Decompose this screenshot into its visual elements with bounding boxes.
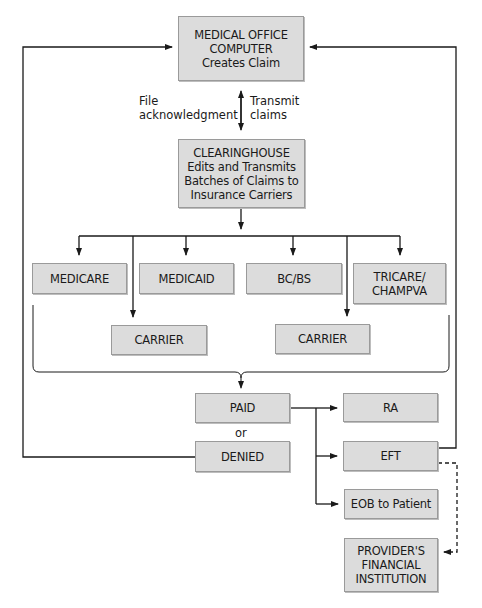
carrier-label-2: CARRIER — [298, 332, 347, 346]
transmit-claims-label: Transmit claims — [250, 94, 299, 122]
medicaid-label: MEDICAID — [159, 272, 215, 286]
paid-node: PAID — [195, 393, 290, 423]
or-label: or — [235, 426, 247, 440]
medical-office-computer-node: MEDICAL OFFICE COMPUTER Creates Claim — [178, 16, 304, 81]
medicare-node: MEDICARE — [32, 263, 127, 294]
clearinghouse-node: CLEARINGHOUSE Edits and Transmits Batche… — [178, 139, 305, 208]
ra-node: RA — [343, 393, 438, 422]
carrier-node-1: CARRIER — [111, 325, 207, 355]
providers-financial-institution-label: PROVIDER'S FINANCIAL INSTITUTION — [355, 544, 426, 586]
eob-to-patient-node: EOB to Patient — [344, 489, 438, 519]
bcbs-node: BC/BS — [246, 263, 342, 294]
providers-financial-institution-node: PROVIDER'S FINANCIAL INSTITUTION — [344, 538, 438, 592]
denied-label: DENIED — [221, 450, 264, 464]
carrier-node-2: CARRIER — [275, 324, 370, 354]
denied-node: DENIED — [195, 441, 290, 472]
clearinghouse-label: CLEARINGHOUSE Edits and Transmits Batche… — [184, 146, 298, 202]
paid-label: PAID — [230, 401, 256, 415]
eft-label: EFT — [380, 449, 400, 463]
carrier-label-1: CARRIER — [134, 333, 183, 347]
file-acknowledgment-label: File acknowledgment — [139, 94, 238, 122]
medicare-label: MEDICARE — [50, 272, 109, 286]
eft-node: EFT — [343, 441, 438, 471]
eob-to-patient-label: EOB to Patient — [351, 497, 431, 511]
tricare-champva-label: TRICARE/ CHAMPVA — [372, 270, 427, 298]
tricare-champva-node: TRICARE/ CHAMPVA — [353, 263, 446, 304]
ra-label: RA — [383, 401, 398, 415]
bcbs-label: BC/BS — [277, 272, 311, 286]
medicaid-node: MEDICAID — [139, 263, 234, 294]
medical-office-computer-label: MEDICAL OFFICE COMPUTER Creates Claim — [194, 28, 288, 70]
